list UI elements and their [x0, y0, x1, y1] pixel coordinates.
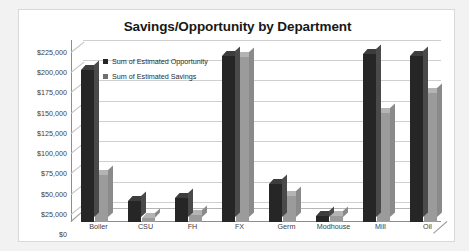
- x-axis-tick-label: FH: [188, 222, 198, 231]
- bar[interactable]: [81, 70, 94, 222]
- legend-label: Sum of Estimated Savings: [112, 72, 196, 81]
- bar-group: [363, 40, 390, 222]
- bar-face: [269, 184, 282, 222]
- x-axis-tick-label: Mill: [375, 222, 386, 231]
- bar-side: [423, 47, 428, 217]
- bar-side: [437, 83, 442, 217]
- bar-side: [188, 188, 193, 217]
- bar-side: [202, 205, 207, 217]
- bar-side: [282, 174, 287, 217]
- bar-side: [376, 44, 381, 217]
- bar[interactable]: [175, 198, 188, 222]
- x-axis-tick-label: FX: [235, 222, 244, 231]
- y-axis-tick-label: $125,000: [37, 128, 67, 137]
- bar-face: [189, 215, 202, 222]
- y-axis-tick-label: $225,000: [37, 48, 67, 57]
- bar-group: [222, 40, 249, 222]
- x-axis-tick-label: Oil: [423, 222, 432, 231]
- bar[interactable]: [410, 56, 423, 222]
- bar[interactable]: [128, 201, 141, 222]
- legend-swatch-icon: [103, 74, 108, 79]
- y-axis-tick-label: $100,000: [37, 149, 67, 158]
- bar-group: [410, 40, 437, 222]
- bar-side: [249, 47, 254, 217]
- y-axis-tick-label: $75,000: [41, 169, 67, 178]
- bar-side: [155, 208, 160, 217]
- plot-area: $225,000$200,000$175,000$150,000$125,000…: [19, 10, 456, 243]
- bar[interactable]: [222, 56, 235, 222]
- x-axis-labels: BoilerCSUFHFXGermModhouseMillOil: [71, 222, 447, 238]
- y-axis-tick-label: $0: [59, 230, 67, 239]
- bar[interactable]: [142, 218, 155, 222]
- bar-face: [330, 216, 343, 222]
- bar[interactable]: [363, 54, 376, 222]
- bar-face: [316, 216, 329, 222]
- bar-face: [128, 201, 141, 222]
- y-axis-tick-label: $150,000: [37, 108, 67, 117]
- y-axis-tick-label: $50,000: [41, 189, 67, 198]
- bar-side: [390, 103, 395, 217]
- bar-side: [235, 47, 240, 217]
- chart-frame: Savings/Opportunity by Department $225,0…: [18, 9, 455, 242]
- bar-side: [108, 166, 113, 217]
- chart-page: Savings/Opportunity by Department $225,0…: [0, 0, 469, 251]
- y-axis-tick-label: $25,000: [41, 209, 67, 218]
- bar-side: [94, 60, 99, 217]
- bar-side: [296, 187, 301, 217]
- x-axis-tick-label: Modhouse: [317, 222, 351, 231]
- bar-face: [363, 54, 376, 222]
- bar-group: [316, 40, 343, 222]
- bar[interactable]: [189, 215, 202, 222]
- bar-face: [81, 70, 94, 222]
- x-axis-tick-label: Boiler: [89, 222, 107, 231]
- bar-face: [142, 218, 155, 222]
- y-axis-labels: $225,000$200,000$175,000$150,000$125,000…: [19, 46, 71, 222]
- bar-side: [141, 191, 146, 217]
- y-axis-tick-label: $200,000: [37, 68, 67, 77]
- bar-face: [410, 56, 423, 222]
- legend-swatch-icon: [103, 59, 108, 64]
- bar-group: [269, 40, 296, 222]
- x-axis-tick-label: CSU: [138, 222, 153, 231]
- bar-face: [175, 198, 188, 222]
- bar[interactable]: [330, 216, 343, 222]
- x-axis-tick-label: Germ: [278, 222, 296, 231]
- bar[interactable]: [316, 216, 329, 222]
- bar-face: [222, 56, 235, 222]
- y-axis-tick-label: $175,000: [37, 88, 67, 97]
- bar[interactable]: [269, 184, 282, 222]
- legend-label: Sum of Estimated Opportunity: [112, 57, 208, 66]
